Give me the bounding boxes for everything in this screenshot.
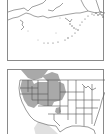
mexico-region (34, 122, 60, 134)
usa-map (8, 70, 105, 134)
alaska-map (8, 0, 105, 62)
alaska-map-panel (7, 0, 104, 61)
usa-map-panel (7, 69, 104, 134)
